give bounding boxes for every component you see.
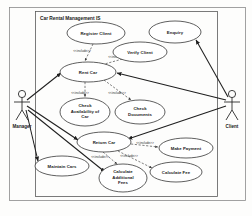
use-case-label-make-payment: Make Payment bbox=[171, 146, 202, 151]
use-case-label-check-availability-line3: Car bbox=[81, 114, 89, 119]
use-case-label-register-client: Register Client bbox=[80, 31, 112, 36]
use-case-label-return-car: Return Car bbox=[93, 140, 116, 145]
use-case-label-enquiry: Enquiry bbox=[167, 30, 184, 35]
use-case-label-calc-add-fees-line2: Additional bbox=[112, 175, 134, 180]
use-case-calculate-fee[interactable]: Calculate Fee bbox=[150, 162, 202, 182]
stereotype-label-calculate-fee: <<include>> bbox=[120, 154, 138, 158]
actor-head-icon bbox=[18, 90, 25, 97]
assoc-client-rent-car bbox=[117, 73, 226, 100]
actor-manager[interactable]: Manager bbox=[13, 90, 32, 129]
use-case-label-calculate-fee: Calculate Fee bbox=[162, 170, 191, 175]
actor-label-client: Client bbox=[226, 124, 239, 129]
system-title: Car Rental Management IS bbox=[40, 16, 101, 21]
stereotype-label-register-client: <<include>> bbox=[73, 49, 91, 53]
use-case-rent-car[interactable]: Rent Car bbox=[60, 62, 116, 82]
use-case-maintain-cars[interactable]: Maintain Cars bbox=[35, 156, 89, 176]
use-case-label-check-availability-line1: Check bbox=[78, 103, 92, 108]
stereotype-label-check-documents: <<include>> bbox=[108, 91, 126, 95]
use-case-check-availability-of-car[interactable]: Check Availability of Car bbox=[60, 98, 110, 126]
use-case-check-documents[interactable]: Check Documents bbox=[115, 100, 165, 124]
use-case-verify-client[interactable]: Verify Client bbox=[113, 42, 167, 62]
use-case-label-check-documents-line2: Documents bbox=[128, 112, 152, 117]
stereotype-label-calculate-additional-fees: <<include>> bbox=[91, 155, 109, 159]
actor-label-manager: Manager bbox=[13, 124, 32, 129]
actor-right-leg-icon bbox=[232, 110, 238, 120]
actor-client[interactable]: Client bbox=[224, 90, 240, 129]
include-rent-car-check-documents bbox=[104, 80, 131, 100]
stereotype-label-check-availability: <<include>> bbox=[71, 91, 89, 95]
use-case-enquiry[interactable]: Enquiry bbox=[149, 21, 201, 43]
use-case-calculate-additional-fees[interactable]: Calculate Additional Fees bbox=[99, 164, 147, 192]
use-case-return-car[interactable]: Return Car bbox=[77, 132, 131, 152]
use-case-make-payment[interactable]: Make Payment bbox=[159, 138, 213, 158]
assoc-manager-rent-car bbox=[27, 73, 61, 100]
use-case-label-calc-add-fees-line3: Fees bbox=[118, 180, 129, 185]
assoc-client-enquiry bbox=[196, 40, 228, 97]
uml-diagram-svg: Car Rental Management IS <<include>> <<i… bbox=[0, 0, 252, 216]
use-case-label-rent-car: Rent Car bbox=[79, 70, 98, 75]
use-case-label-calc-add-fees-line1: Calculate bbox=[113, 169, 133, 174]
use-case-label-check-availability-line2: Availability of bbox=[71, 109, 100, 114]
assoc-manager-maintain-cars bbox=[26, 110, 38, 161]
actor-left-leg-icon bbox=[226, 110, 232, 120]
actor-left-leg-icon bbox=[16, 110, 22, 120]
use-case-label-check-documents-line1: Check bbox=[133, 106, 147, 111]
actor-head-icon bbox=[228, 90, 235, 97]
use-case-label-verify-client: Verify Client bbox=[127, 50, 153, 55]
use-case-label-maintain-cars: Maintain Cars bbox=[48, 164, 77, 169]
use-case-diagram-canvas: Car Rental Management IS <<include>> <<i… bbox=[0, 0, 252, 216]
use-case-register-client[interactable]: Register Client bbox=[67, 22, 125, 44]
stereotype-label-make-payment: <<include>> bbox=[136, 141, 154, 145]
